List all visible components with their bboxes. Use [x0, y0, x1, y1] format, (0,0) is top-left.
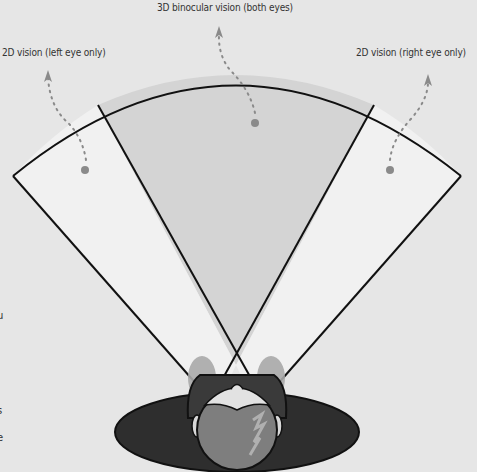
- label-left-eye: 2D vision (left eye only): [2, 46, 106, 59]
- edge-fragment: u: [0, 310, 3, 321]
- field-of-vision-diagram: [0, 0, 477, 472]
- edge-fragment: s: [0, 405, 2, 416]
- label-binocular: 3D binocular vision (both eyes): [157, 1, 293, 14]
- edge-fragment: e: [0, 432, 3, 443]
- label-right-eye: 2D vision (right eye only): [356, 46, 466, 59]
